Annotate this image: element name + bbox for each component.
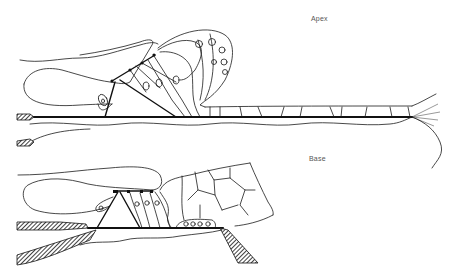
- apex-panel: [17, 30, 442, 168]
- organ-of-corti-figure: Apex Base: [0, 0, 457, 280]
- base-label: Base: [309, 155, 326, 162]
- apex-label: Apex: [311, 15, 328, 22]
- base-panel: [17, 163, 273, 265]
- diagram-drawing: [0, 0, 457, 280]
